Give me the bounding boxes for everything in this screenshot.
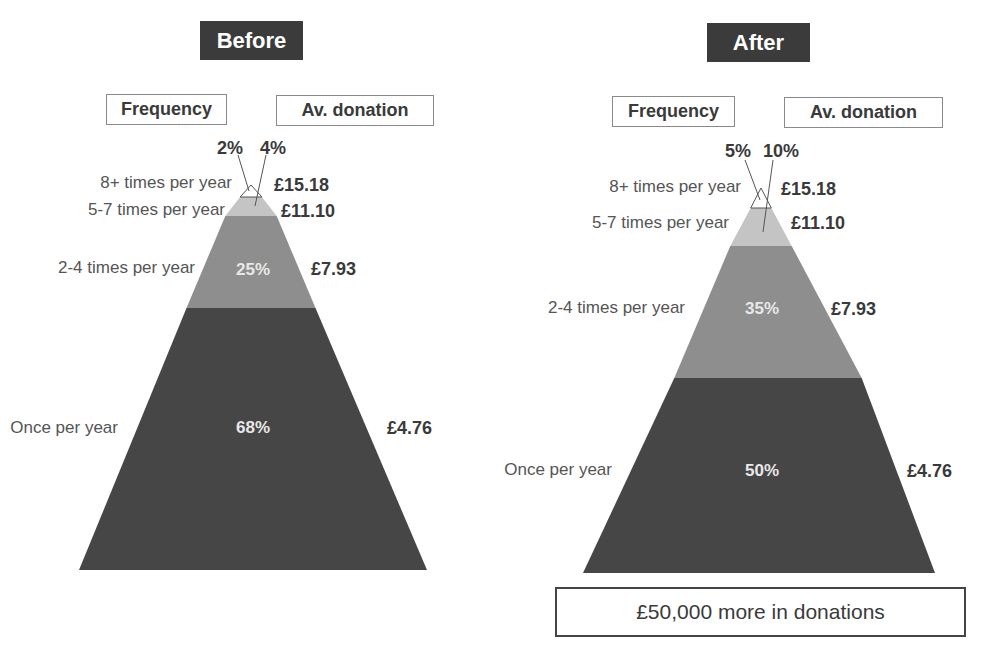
before-title: Before bbox=[200, 21, 303, 60]
before-donation-8plus: £15.18 bbox=[274, 175, 329, 196]
after-frequency-header: Frequency bbox=[612, 96, 735, 127]
after-label-once: Once per year bbox=[504, 460, 612, 480]
before-pct-5-7: 4% bbox=[260, 138, 286, 159]
after-label-2-4: 2-4 times per year bbox=[548, 298, 685, 318]
before-tier-5-7 bbox=[225, 197, 276, 216]
after-label-8plus: 8+ times per year bbox=[609, 177, 741, 197]
before-tier-once bbox=[79, 308, 427, 570]
after-pct-5-7: 10% bbox=[763, 141, 799, 162]
after-donation-8plus: £15.18 bbox=[781, 179, 836, 200]
after-tier-5-7 bbox=[730, 208, 791, 246]
after-pct-once: 50% bbox=[745, 461, 779, 481]
after-pct-8plus: 5% bbox=[725, 141, 751, 162]
before-label-2-4: 2-4 times per year bbox=[58, 258, 195, 278]
after-title: After bbox=[707, 23, 810, 62]
before-pct-8plus: 2% bbox=[217, 138, 243, 159]
before-pct-once: 68% bbox=[236, 418, 270, 438]
after-donation-header: Av. donation bbox=[784, 97, 943, 128]
before-pct-2-4: 25% bbox=[236, 260, 270, 280]
before-label-5-7: 5-7 times per year bbox=[88, 200, 225, 220]
before-donation-5-7: £11.10 bbox=[281, 201, 335, 222]
before-label-once: Once per year bbox=[10, 418, 118, 438]
before-donation-2-4: £7.93 bbox=[311, 259, 356, 280]
after-donation-5-7: £11.10 bbox=[791, 213, 845, 234]
before-label-8plus: 8+ times per year bbox=[100, 173, 232, 193]
after-donation-2-4: £7.93 bbox=[831, 299, 876, 320]
summary-annotation: £50,000 more in donations bbox=[555, 587, 966, 637]
before-donation-header: Av. donation bbox=[276, 95, 434, 126]
after-donation-once: £4.76 bbox=[907, 461, 952, 482]
before-frequency-header: Frequency bbox=[106, 94, 227, 125]
after-label-5-7: 5-7 times per year bbox=[592, 213, 729, 233]
after-pct-2-4: 35% bbox=[745, 299, 779, 319]
before-donation-once: £4.76 bbox=[387, 418, 432, 439]
